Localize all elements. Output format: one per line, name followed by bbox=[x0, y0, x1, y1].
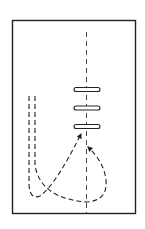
slot-2 bbox=[74, 106, 100, 110]
frame-border bbox=[13, 21, 136, 214]
slots bbox=[74, 88, 100, 129]
diagram-canvas bbox=[0, 0, 145, 229]
slot-3 bbox=[74, 125, 100, 129]
strand-left bbox=[29, 96, 81, 197]
slot-1 bbox=[74, 88, 100, 92]
strand-right bbox=[35, 96, 106, 202]
